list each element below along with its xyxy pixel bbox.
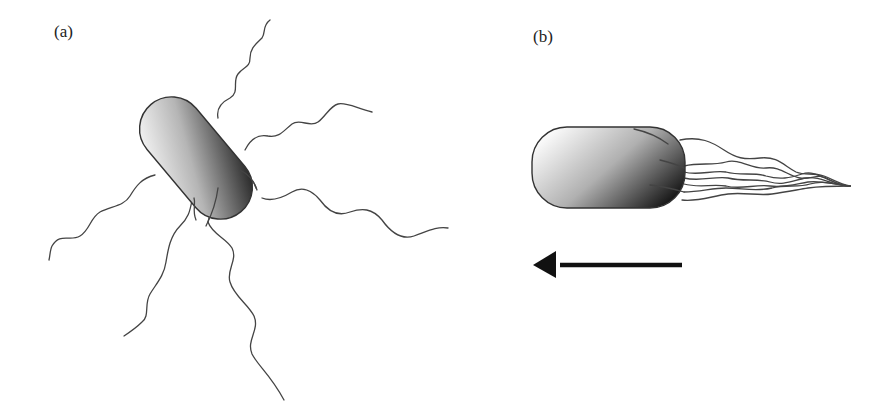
flagella-bundle-b xyxy=(680,139,850,201)
diagram-canvas xyxy=(0,0,891,414)
flagella-a xyxy=(49,20,448,400)
cell-body-b xyxy=(532,127,685,208)
cell-body-a xyxy=(126,84,265,232)
swim-direction-arrow-icon xyxy=(533,251,682,278)
panel-a-bacterium xyxy=(49,20,448,400)
panel-b-bacterium xyxy=(532,127,850,208)
